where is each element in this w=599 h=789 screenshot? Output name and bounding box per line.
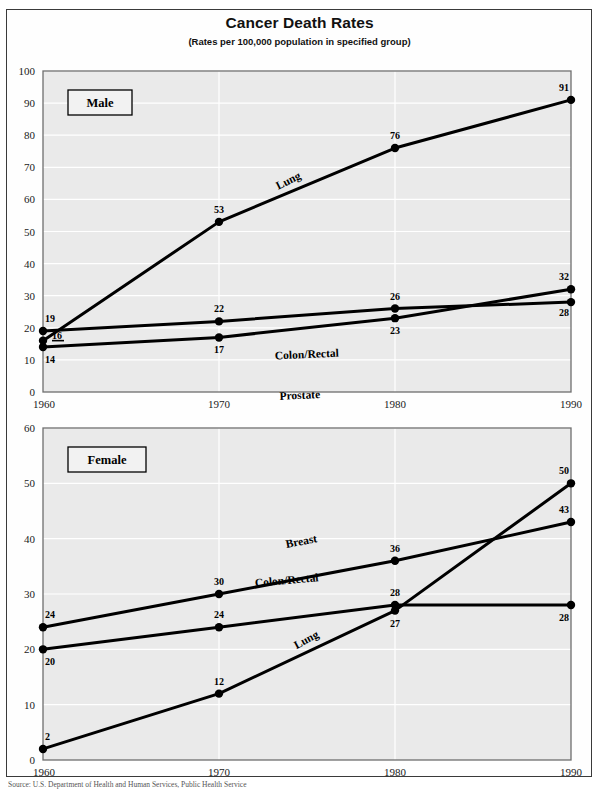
x-axis-tick-label: 1960 <box>33 766 56 778</box>
series-label: Prostate <box>279 388 320 402</box>
y-axis-tick-label: 60 <box>24 422 36 434</box>
data-point-label: 17 <box>214 344 224 355</box>
data-point-label: 24 <box>45 609 55 620</box>
panel-label-text: Female <box>88 453 127 467</box>
data-point-label: 23 <box>390 325 400 336</box>
data-point-label: 24 <box>214 609 224 620</box>
y-axis-tick-label: 50 <box>24 477 36 489</box>
data-point-marker <box>215 333 223 341</box>
y-axis-tick-label: 90 <box>24 97 36 109</box>
x-axis-tick-label: 1990 <box>560 398 583 410</box>
page-subtitle: (Rates per 100,000 population in specifi… <box>0 36 599 47</box>
data-point-marker <box>567 298 575 306</box>
data-point-marker <box>567 96 575 104</box>
title-block: Cancer Death Rates (Rates per 100,000 po… <box>0 14 599 47</box>
data-point-label: 53 <box>214 204 224 215</box>
y-axis-tick-label: 10 <box>24 699 36 711</box>
data-point-label: 26 <box>390 291 400 302</box>
data-point-label: 12 <box>214 676 224 687</box>
data-point-label: 91 <box>559 82 569 93</box>
data-point-label: 76 <box>390 130 400 141</box>
x-axis-tick-label: 1970 <box>208 766 231 778</box>
data-point-marker <box>391 304 399 312</box>
data-point-marker <box>567 601 575 609</box>
data-point-label: 28 <box>390 587 400 598</box>
data-point-marker <box>567 518 575 526</box>
data-point-label: 30 <box>214 576 224 587</box>
data-point-marker <box>215 317 223 325</box>
female-chart-svg: 01020304050601960197019801990Female24303… <box>0 418 599 778</box>
x-axis-tick-label: 1990 <box>560 766 583 778</box>
data-point-label: 36 <box>390 543 400 554</box>
y-axis-tick-label: 60 <box>24 193 36 205</box>
x-axis-tick-label: 1980 <box>384 766 407 778</box>
x-axis-tick-label: 1960 <box>33 398 56 410</box>
data-point-marker <box>39 327 47 335</box>
y-axis-tick-label: 30 <box>24 290 36 302</box>
data-point-label: 22 <box>214 303 224 314</box>
data-point-label: 32 <box>559 271 569 282</box>
y-axis-tick-label: 40 <box>24 258 36 270</box>
data-point-label: 2 <box>45 731 50 742</box>
chart-page: Cancer Death Rates (Rates per 100,000 po… <box>0 0 599 789</box>
y-axis-tick-label: 70 <box>24 161 36 173</box>
x-axis-tick-label: 1980 <box>384 398 407 410</box>
data-point-marker <box>215 623 223 631</box>
chart-panel-female: 01020304050601960197019801990Female24303… <box>0 418 599 778</box>
y-axis-tick-label: 30 <box>24 588 36 600</box>
y-axis-tick-label: 20 <box>24 643 36 655</box>
panel-label-text: Male <box>86 96 114 110</box>
data-point-marker <box>391 606 399 614</box>
data-point-marker <box>391 557 399 565</box>
data-point-label: 20 <box>45 656 55 667</box>
data-point-marker <box>215 590 223 598</box>
data-point-label: 19 <box>45 313 55 324</box>
data-point-marker <box>39 645 47 653</box>
y-axis-tick-label: 100 <box>19 65 36 77</box>
y-axis-tick-label: 20 <box>24 322 36 334</box>
y-axis-tick-label: 50 <box>24 226 36 238</box>
data-point-marker <box>567 479 575 487</box>
x-axis-tick-label: 1970 <box>208 398 231 410</box>
source-note: Source: U.S. Department of Health and Hu… <box>8 780 568 789</box>
data-point-label: 50 <box>559 465 569 476</box>
data-point-marker <box>39 343 47 351</box>
data-point-label: 27 <box>390 618 400 629</box>
data-point-marker <box>391 144 399 152</box>
y-axis-tick-label: 0 <box>30 754 36 766</box>
data-point-marker <box>39 623 47 631</box>
y-axis-tick-label: 80 <box>24 129 36 141</box>
data-point-label: 43 <box>559 504 569 515</box>
male-chart-svg: 01020304050607080901001960197019801990Ma… <box>0 58 599 410</box>
data-point-marker <box>215 218 223 226</box>
data-point-label: 28 <box>559 612 569 623</box>
data-point-marker <box>215 689 223 697</box>
y-axis-tick-label: 10 <box>24 354 36 366</box>
y-axis-tick-label: 40 <box>24 533 36 545</box>
data-point-label: 28 <box>559 307 569 318</box>
data-point-marker <box>391 314 399 322</box>
data-point-label: 14 <box>45 354 55 365</box>
data-point-marker <box>567 285 575 293</box>
data-point-marker <box>39 745 47 753</box>
chart-panel-male: 01020304050607080901001960197019801990Ma… <box>0 58 599 410</box>
y-axis-tick-label: 0 <box>30 386 36 398</box>
page-title: Cancer Death Rates <box>0 14 599 32</box>
